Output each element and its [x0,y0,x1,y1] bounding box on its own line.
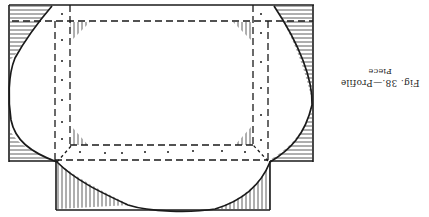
profile-piece-drawing [0,0,429,217]
dashed-guides [12,5,313,162]
figure-caption: Fig. 38.—Profile Piece [335,66,425,88]
tack-marks [61,13,262,154]
outer-frame [9,5,314,162]
caption-line-2: Piece [335,66,425,77]
caption-line-1: Fig. 38.—Profile [335,77,425,88]
